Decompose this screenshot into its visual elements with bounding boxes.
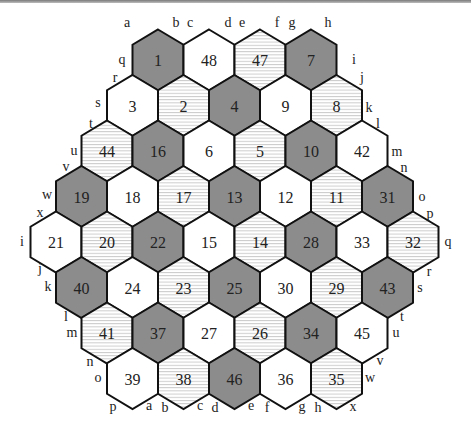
edge-label-q: q (445, 234, 452, 249)
hex-board: 1484773249844166510421918171312113121202… (0, 0, 471, 435)
edge-label-h: h (325, 15, 332, 30)
edge-label-b: b (173, 15, 180, 30)
hex-number: 48 (201, 52, 217, 69)
hex-number: 32 (405, 234, 421, 251)
hex-number: 13 (227, 189, 243, 206)
edge-label-f: f (275, 15, 280, 30)
hex-number: 41 (99, 325, 115, 342)
edge-label-x: x (37, 205, 44, 220)
edge-label-r: r (427, 264, 432, 279)
hex-number: 3 (129, 98, 137, 115)
hex-number: 21 (48, 234, 64, 251)
edge-label-n: n (87, 354, 94, 369)
hex-number: 26 (252, 325, 268, 342)
hex-number: 14 (252, 234, 268, 251)
hex-number: 38 (176, 371, 192, 388)
edge-label-a: a (146, 398, 153, 413)
edge-label-g: g (289, 15, 296, 30)
hex-number: 5 (256, 143, 264, 160)
hex-number: 40 (74, 280, 90, 297)
hex-number: 9 (282, 98, 290, 115)
edge-label-s: s (417, 280, 422, 295)
hex-number: 39 (125, 371, 141, 388)
edge-label-w: w (365, 370, 376, 385)
hex-number: 24 (125, 280, 141, 297)
edge-label-q: q (119, 52, 126, 67)
hex-number: 19 (74, 189, 90, 206)
edge-label-c: c (197, 398, 203, 413)
edge-label-v: v (377, 353, 384, 368)
edge-label-t: t (400, 309, 404, 324)
edge-label-x: x (350, 399, 357, 414)
hex-number: 27 (201, 325, 217, 342)
hex-number: 35 (329, 371, 345, 388)
edge-label-e: e (248, 398, 254, 413)
edge-label-j: j (37, 261, 42, 276)
edge-label-e: e (239, 15, 245, 30)
hex-number: 47 (252, 52, 268, 69)
hex-number: 12 (278, 189, 294, 206)
edge-label-l: l (376, 116, 380, 131)
edge-label-r: r (113, 70, 118, 85)
hex-number: 1 (154, 52, 162, 69)
hex-number: 6 (205, 143, 213, 160)
hex-number: 34 (303, 325, 319, 342)
hex-number: 43 (380, 280, 396, 297)
hex-number: 37 (150, 325, 166, 342)
edge-label-d: d (225, 15, 232, 30)
hex-number: 17 (176, 189, 192, 206)
edge-label-s: s (95, 95, 100, 110)
edge-label-n: n (401, 160, 408, 175)
hex-number: 42 (354, 143, 370, 160)
hex-number: 20 (99, 234, 115, 251)
hex-number: 30 (278, 280, 294, 297)
hex-number: 28 (303, 234, 319, 251)
hex-number: 36 (278, 371, 294, 388)
hex-number: 31 (380, 189, 396, 206)
edge-label-w: w (42, 187, 53, 202)
edge-label-h: h (315, 400, 322, 415)
hex-number: 10 (303, 143, 319, 160)
edge-label-u: u (393, 325, 400, 340)
hex-number: 46 (227, 371, 243, 388)
edge-label-i: i (352, 52, 356, 67)
hex-number: 8 (333, 98, 341, 115)
edge-label-m: m (67, 325, 78, 340)
hex-number: 25 (227, 280, 243, 297)
hex-number: 22 (150, 234, 166, 251)
hex-number: 44 (99, 143, 115, 160)
edge-label-g: g (299, 399, 306, 414)
edge-label-u: u (71, 143, 78, 158)
hex-number: 45 (354, 325, 370, 342)
edge-label-v: v (63, 159, 70, 174)
edge-label-o: o (419, 189, 426, 204)
edge-label-j: j (359, 70, 364, 85)
edge-label-m: m (392, 144, 403, 159)
edge-label-b: b (162, 400, 169, 415)
hex-number: 11 (329, 189, 344, 206)
edge-label-a: a (124, 15, 131, 30)
hex-number: 23 (176, 280, 192, 297)
edge-label-l: l (64, 309, 68, 324)
edge-label-k: k (366, 100, 373, 115)
edge-label-p: p (110, 399, 117, 414)
hex-number: 16 (150, 143, 166, 160)
hex-number: 18 (125, 189, 141, 206)
edge-label-t: t (89, 116, 93, 131)
edge-label-p: p (427, 206, 434, 221)
edge-label-f: f (265, 400, 270, 415)
edge-label-k: k (45, 279, 52, 294)
hex-number: 2 (180, 98, 188, 115)
hex-number: 33 (354, 234, 370, 251)
hex-number: 15 (201, 234, 217, 251)
hex-number: 4 (231, 98, 239, 115)
hex-number: 29 (329, 280, 345, 297)
edge-label-d: d (212, 400, 219, 415)
edge-label-c: c (187, 15, 193, 30)
edge-label-i: i (20, 234, 24, 249)
hex-number: 7 (307, 52, 315, 69)
edge-label-o: o (95, 370, 102, 385)
